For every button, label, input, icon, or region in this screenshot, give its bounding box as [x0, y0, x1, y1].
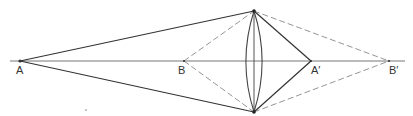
label-A: A: [16, 64, 24, 76]
stray-dot: [85, 109, 87, 111]
ray-lens-top-to-b-prime: [254, 11, 389, 61]
lens-ray-diagram: A B A′ B′: [0, 0, 413, 116]
solid-rays: [20, 11, 311, 112]
point-a-prime-marker: [310, 60, 312, 62]
dashed-rays: [184, 11, 389, 112]
lens-top-vertex: [252, 9, 256, 13]
point-a-marker: [18, 59, 21, 62]
point-b-marker: [183, 60, 185, 62]
ray-lens-bottom-to-b-prime: [254, 61, 389, 112]
label-B-prime: B′: [389, 64, 398, 76]
label-B: B: [178, 64, 185, 76]
lens-bottom-vertex: [252, 110, 256, 114]
ray-a-to-lens-top: [20, 11, 254, 61]
label-A-prime: A′: [311, 64, 320, 76]
ray-a-to-lens-bottom: [20, 61, 254, 112]
point-b-prime-marker: [388, 60, 390, 62]
ray-lens-bottom-to-a-prime: [254, 61, 311, 112]
ray-lens-top-to-a-prime: [254, 11, 311, 61]
